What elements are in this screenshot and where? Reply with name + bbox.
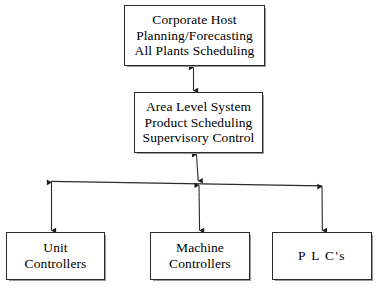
node-plcs-line-1: P L C's: [298, 248, 346, 264]
connector-bus-to-machine-controllers: [199, 185, 200, 230]
node-plcs: P L C's: [272, 232, 372, 280]
node-corporate-host-line-1: Corporate Host: [152, 12, 236, 28]
node-unit-controllers-line-2: Controllers: [25, 256, 87, 272]
node-machine-controllers-line-2: Controllers: [169, 256, 231, 272]
node-unit-controllers-line-1: Unit: [43, 240, 67, 256]
node-area-level-line-1: Area Level System: [146, 99, 251, 115]
node-corporate-host-line-2: Planning/Forecasting: [136, 28, 253, 44]
node-machine-controllers: Machine Controllers: [150, 232, 250, 280]
connector-area-to-bus: [197, 155, 199, 182]
node-area-level-system: Area Level System Product Scheduling Sup…: [134, 92, 263, 153]
node-machine-controllers-line-1: Machine: [176, 240, 224, 256]
node-area-level-line-3: Supervisory Control: [143, 130, 255, 146]
node-corporate-host: Corporate Host Planning/Forecasting All …: [124, 5, 265, 66]
distribution-bus-line: [51, 181, 322, 185]
node-area-level-line-2: Product Scheduling: [145, 115, 253, 131]
node-unit-controllers: Unit Controllers: [6, 232, 105, 280]
node-corporate-host-line-3: All Plants Scheduling: [135, 43, 255, 59]
control-system-diagram: Corporate Host Planning/Forecasting All …: [0, 0, 378, 290]
